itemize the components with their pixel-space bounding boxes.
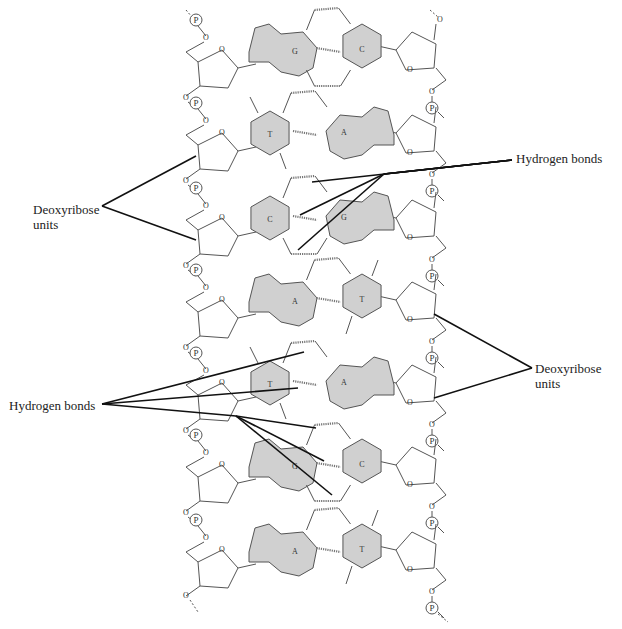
- oxygen-atom: O: [219, 460, 225, 469]
- phosphate-label: P: [193, 98, 198, 108]
- base-pair-row-1: POOOOOOPGC: [183, 8, 446, 118]
- oxygen-atom: O: [429, 255, 435, 264]
- base-G-left: [249, 439, 317, 491]
- oxygen-atom: O: [407, 398, 413, 407]
- base-A-right: [326, 107, 394, 159]
- phosphate-label: P: [429, 186, 434, 196]
- phosphate-group: P: [190, 347, 202, 359]
- oxygen-atom: O: [429, 170, 435, 179]
- label-deoxyribose-left: Deoxyribose units: [33, 202, 99, 232]
- label-deoxyribose-left-line1: Deoxyribose: [33, 202, 99, 217]
- phosphate-group: P: [190, 182, 202, 194]
- leader-deoxy-left-1: [102, 156, 196, 206]
- label-hydrogen-bonds-right: Hydrogen bonds: [516, 151, 602, 166]
- base-A-right: [326, 357, 394, 409]
- phosphate-label: P: [193, 15, 198, 25]
- phosphate-label: P: [193, 515, 198, 525]
- label-hydrogen-bonds-left: Hydrogen bonds: [9, 398, 95, 413]
- oxygen-atom: O: [219, 128, 225, 137]
- oxygen-atom: O: [203, 283, 209, 292]
- dna-diagram: POOOOOOPGCPOOOOOPTAPOOOOOPCGPOOOOOPATPOO…: [0, 0, 622, 629]
- label-deoxyribose-right: Deoxyribose units: [535, 361, 601, 391]
- oxygen-atom: O: [407, 148, 413, 157]
- leader-deoxy-right-2: [434, 368, 532, 398]
- phosphate-group: P: [190, 514, 202, 526]
- base-label-left: G: [292, 47, 298, 56]
- label-deoxyribose-left-line2: units: [33, 217, 99, 232]
- leader-deoxy-right-1: [434, 314, 532, 368]
- phosphate-group: P: [190, 97, 202, 109]
- oxygen-atom: O: [203, 116, 209, 125]
- phosphate-group: P: [190, 429, 202, 441]
- oxygen-atom: O: [183, 508, 189, 517]
- base-pair-row-3: POOOOOPCG: [183, 176, 446, 286]
- phosphate-label: P: [193, 430, 198, 440]
- oxygen-atom: O: [203, 533, 209, 542]
- deoxyribose-ring: [198, 465, 238, 503]
- oxygen-atom: O: [429, 420, 435, 429]
- oxygen-atom: O: [219, 45, 225, 54]
- base-label-left: C: [267, 215, 272, 224]
- phosphate-group: P: [426, 602, 438, 614]
- phosphate-label: P: [193, 183, 198, 193]
- leader-lines: [102, 156, 532, 495]
- phosphate-group: P: [426, 517, 438, 529]
- base-label-right: A: [341, 378, 347, 387]
- oxygen-atom: O: [219, 213, 225, 222]
- deoxyribose-ring: [396, 447, 436, 485]
- deoxyribose-ring: [396, 365, 436, 403]
- base-label-left: T: [268, 380, 273, 389]
- deoxyribose-ring: [198, 50, 238, 88]
- base-pair-row-6: POOOOOPGC: [183, 423, 446, 533]
- phosphate-label: P: [193, 265, 198, 275]
- phosphate-label: P: [429, 353, 434, 363]
- phosphate-label: P: [429, 271, 434, 281]
- deoxyribose-ring: [198, 550, 238, 588]
- phosphate-group: P: [190, 264, 202, 276]
- oxygen-atom: O: [183, 93, 189, 102]
- oxygen-atom: O: [219, 378, 225, 387]
- base-label-right: T: [360, 295, 365, 304]
- deoxyribose-ring: [198, 218, 238, 256]
- deoxyribose-ring: [396, 32, 436, 70]
- oxygen-atom: O: [203, 33, 209, 42]
- leader-hbond-right-1: [312, 160, 512, 182]
- base-label-right: G: [341, 213, 347, 222]
- base-label-right: T: [360, 545, 365, 554]
- base-pair-row-7: POOOOOPAT: [183, 508, 448, 622]
- base-label-left: T: [268, 130, 273, 139]
- base-A-left: [249, 274, 317, 326]
- leader-deoxy-left-2: [102, 206, 196, 240]
- oxygen-atom: O: [219, 295, 225, 304]
- base-G-left: [249, 24, 317, 76]
- oxygen-atom: O: [407, 65, 413, 74]
- label-deoxyribose-right-line1: Deoxyribose: [535, 361, 601, 376]
- phosphate-label: P: [429, 603, 434, 613]
- label-deoxyribose-right-line2: units: [535, 376, 601, 391]
- oxygen-atom: O: [183, 261, 189, 270]
- oxygen-atom: O: [203, 201, 209, 210]
- phosphate-label: P: [429, 103, 434, 113]
- oxygen-atom: O: [437, 15, 443, 24]
- base-pair-row-5: POOOOOPTA: [183, 341, 446, 451]
- oxygen-atom: O: [183, 591, 189, 600]
- phosphate-group: P: [426, 185, 438, 197]
- oxygen-atom: O: [183, 343, 189, 352]
- deoxyribose-ring: [396, 200, 436, 238]
- leader-hbond-left-3: [102, 404, 236, 416]
- base-label-right: C: [359, 45, 364, 54]
- oxygen-atom: O: [183, 176, 189, 185]
- oxygen-atom: O: [203, 366, 209, 375]
- oxygen-atom: O: [407, 233, 413, 242]
- oxygen-atom: O: [407, 315, 413, 324]
- base-label-right: A: [341, 128, 347, 137]
- oxygen-atom: O: [429, 337, 435, 346]
- oxygen-atom: O: [203, 448, 209, 457]
- oxygen-atom: O: [407, 480, 413, 489]
- deoxyribose-ring: [198, 300, 238, 338]
- base-pair-row-4: POOOOOPAT: [183, 258, 446, 368]
- base-G-right: [326, 192, 394, 244]
- phosphate-label: P: [429, 436, 434, 446]
- dna-structure-drawing: POOOOOOPGCPOOOOOPTAPOOOOOPCGPOOOOOPATPOO…: [0, 0, 622, 629]
- oxygen-atom: O: [219, 545, 225, 554]
